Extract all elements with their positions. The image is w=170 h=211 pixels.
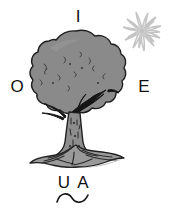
letter-o: O xyxy=(8,78,26,95)
illustration-canvas: I O E U A xyxy=(0,0,170,211)
tree-illustration xyxy=(20,28,132,168)
letter-e: E xyxy=(135,78,153,95)
letter-u: U xyxy=(56,174,72,191)
tilde-wave-icon xyxy=(54,190,96,208)
letter-a: A xyxy=(74,174,92,191)
letter-i: I xyxy=(70,8,86,25)
